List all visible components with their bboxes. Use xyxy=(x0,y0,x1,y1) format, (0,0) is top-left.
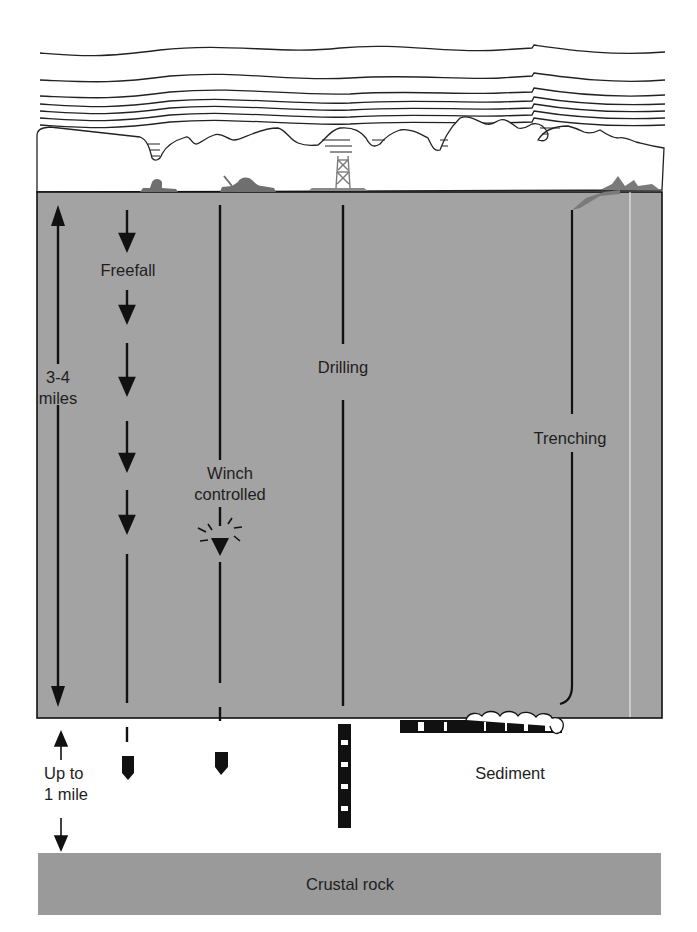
sediment-depth-line1: Up to xyxy=(44,763,114,784)
drill-core-canisters-icon xyxy=(338,724,351,828)
winch-label-line1: Winch xyxy=(180,463,280,484)
sediment-label: Sediment xyxy=(450,763,570,784)
winch-controlled-label: Winch controlled xyxy=(180,463,280,505)
sediment-depth-label: Up to 1 mile xyxy=(44,763,114,805)
crustal-rock-label: Crustal rock xyxy=(250,874,450,895)
freefall-label: Freefall xyxy=(88,260,168,281)
winch-penetrator-icon xyxy=(215,752,228,775)
cloud-base xyxy=(37,117,664,192)
sediment-depth-line2: 1 mile xyxy=(44,784,114,805)
ocean-depth-label: 3-4 miles xyxy=(30,367,86,409)
atmosphere-layers xyxy=(40,45,665,128)
ocean-depth-unit: miles xyxy=(30,388,86,409)
winch-label-line2: controlled xyxy=(180,484,280,505)
ocean-depth-value: 3-4 xyxy=(30,367,86,388)
freefall-penetrator-icon xyxy=(122,756,134,780)
drilling-label: Drilling xyxy=(298,357,388,378)
trenching-label: Trenching xyxy=(515,428,625,449)
